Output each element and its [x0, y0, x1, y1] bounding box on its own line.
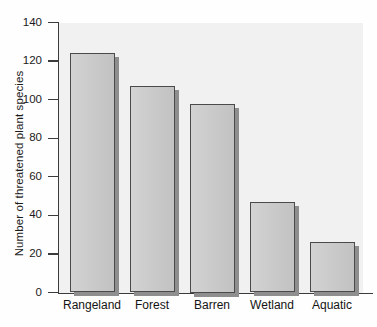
y-axis-line: [58, 22, 59, 294]
y-axis-tick: [48, 253, 58, 254]
bar-body: [310, 242, 355, 292]
y-axis-tick: [48, 60, 58, 61]
x-axis-tick-label-aquatic: Aquatic: [277, 298, 377, 312]
bar-forest: [130, 86, 175, 292]
y-axis-tick: [48, 22, 58, 23]
y-axis-tick: [48, 292, 58, 293]
y-axis-tick-label: 0: [8, 287, 42, 299]
bar-body: [70, 53, 115, 292]
bar-body: [250, 202, 295, 293]
y-axis-tick-label: 140: [8, 17, 42, 29]
bar-chart-figure: Number of threatened plant species 02040…: [0, 0, 377, 327]
y-axis-tick-label: 80: [8, 132, 42, 144]
y-axis-tick: [48, 176, 58, 177]
bar-body: [130, 86, 175, 292]
y-axis-tick-label: 60: [8, 171, 42, 183]
y-axis-tick-label: 100: [8, 94, 42, 106]
bar-wetland: [250, 202, 295, 293]
y-axis-tick: [48, 215, 58, 216]
y-axis-tick: [48, 138, 58, 139]
bar-rangeland: [70, 53, 115, 292]
bar-body: [190, 104, 235, 293]
y-axis-tick-label: 120: [8, 55, 42, 67]
y-axis-tick-label: 20: [8, 248, 42, 260]
y-axis-tick: [48, 99, 58, 100]
y-axis-title: Number of threatened plant species: [22, 0, 44, 327]
bar-aquatic: [310, 242, 355, 292]
y-axis-tick-label: 40: [8, 209, 42, 221]
bar-barren: [190, 104, 235, 293]
